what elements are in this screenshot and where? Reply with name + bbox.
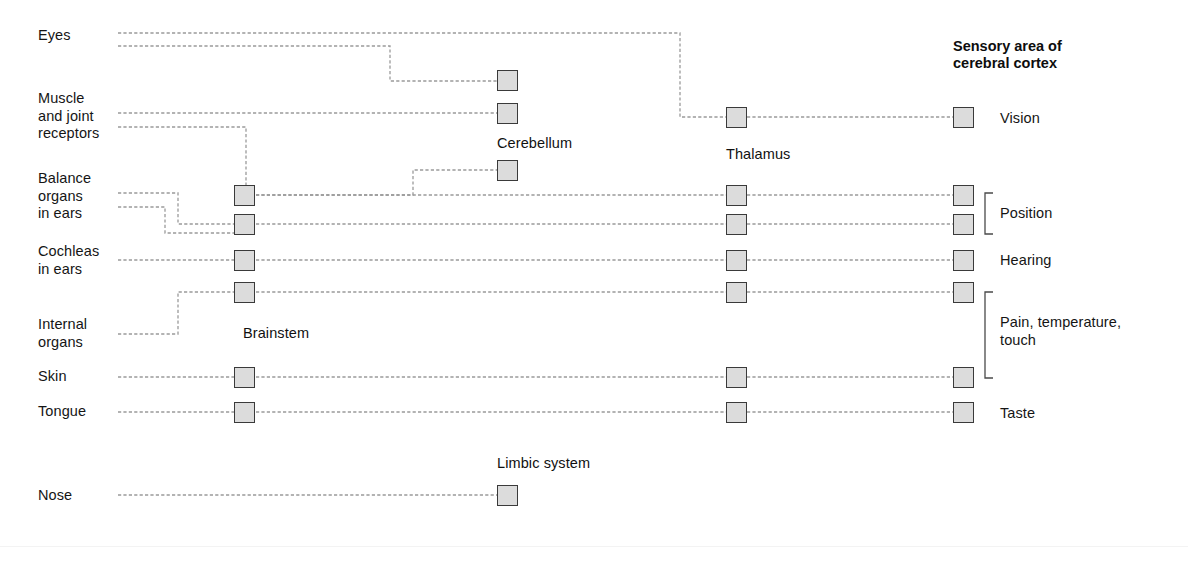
pain-bracket xyxy=(985,292,993,378)
node-brainstem-6[interactable] xyxy=(234,402,255,423)
node-cortex-4[interactable] xyxy=(953,250,974,271)
node-thalamus-4[interactable] xyxy=(726,250,747,271)
diagram-canvas: Eyes Muscle and joint receptors Balance … xyxy=(0,0,1188,568)
wire-brainstem-1-to-cerebellum-3 xyxy=(256,170,497,195)
node-brainstem-2[interactable] xyxy=(234,214,255,235)
source-label-eyes: Eyes xyxy=(38,27,71,45)
source-label-muscle: Muscle and joint receptors xyxy=(38,90,99,143)
wire-eyes-to-thalamus xyxy=(118,33,726,117)
source-label-internal: Internal organs xyxy=(38,316,87,351)
source-label-skin: Skin xyxy=(38,368,67,386)
structure-label-limbic: Limbic system xyxy=(497,455,590,473)
source-label-balance: Balance organs in ears xyxy=(38,170,91,223)
node-thalamus-1[interactable] xyxy=(726,107,747,128)
cortex-label-pain: Pain, temperature, touch xyxy=(1000,314,1121,349)
node-thalamus-5[interactable] xyxy=(726,282,747,303)
wire-layer xyxy=(0,0,1188,568)
structure-label-brainstem: Brainstem xyxy=(243,325,309,343)
node-limbic-1[interactable] xyxy=(497,485,518,506)
node-brainstem-4[interactable] xyxy=(234,282,255,303)
node-thalamus-6[interactable] xyxy=(726,367,747,388)
node-brainstem-5[interactable] xyxy=(234,367,255,388)
node-cortex-7[interactable] xyxy=(953,402,974,423)
source-label-cochleas: Cochleas in ears xyxy=(38,243,99,278)
source-label-tongue: Tongue xyxy=(38,403,86,421)
node-cortex-3[interactable] xyxy=(953,214,974,235)
node-thalamus-2[interactable] xyxy=(726,185,747,206)
node-cerebellum-2[interactable] xyxy=(497,103,518,124)
node-cerebellum-1[interactable] xyxy=(497,70,518,91)
scan-artifact-line xyxy=(0,546,1188,547)
cortex-label-position: Position xyxy=(1000,205,1052,223)
cortex-label-taste: Taste xyxy=(1000,405,1035,423)
node-brainstem-3[interactable] xyxy=(234,250,255,271)
position-bracket xyxy=(985,193,993,234)
node-cortex-2[interactable] xyxy=(953,185,974,206)
wire-internal-to-brainstem xyxy=(118,292,234,334)
node-cortex-6[interactable] xyxy=(953,367,974,388)
source-label-nose: Nose xyxy=(38,487,72,505)
wire-balance-to-brainstem-2b xyxy=(118,207,234,233)
structure-label-cerebellum: Cerebellum xyxy=(497,135,572,153)
wire-balance-to-brainstem-2 xyxy=(118,193,234,224)
structure-label-thalamus: Thalamus xyxy=(726,146,790,164)
wire-muscle-to-brainstem xyxy=(118,127,246,185)
node-brainstem-1[interactable] xyxy=(234,185,255,206)
cortex-label-hearing: Hearing xyxy=(1000,252,1051,270)
node-cortex-5[interactable] xyxy=(953,282,974,303)
node-thalamus-7[interactable] xyxy=(726,402,747,423)
wire-eyes-to-cerebellum xyxy=(118,46,497,81)
cortex-title: Sensory area of cerebral cortex xyxy=(953,38,1062,72)
node-thalamus-3[interactable] xyxy=(726,214,747,235)
node-cortex-1[interactable] xyxy=(953,107,974,128)
node-cerebellum-3[interactable] xyxy=(497,160,518,181)
cortex-label-vision: Vision xyxy=(1000,110,1040,128)
